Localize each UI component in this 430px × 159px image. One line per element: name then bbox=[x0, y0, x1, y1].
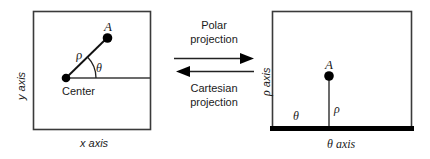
polar-projection-arrow-head bbox=[240, 53, 254, 64]
polar-theta-axis-label: θ axis bbox=[327, 138, 355, 150]
polar-theta-axis-bar bbox=[270, 126, 414, 131]
y-axis-label-text: y axis bbox=[15, 72, 27, 100]
cartesian-y-axis-label: y axis bbox=[16, 72, 27, 100]
cartesian-projection-line-1: Cartesian bbox=[172, 83, 256, 94]
cartesian-projection-arrow-head bbox=[176, 66, 190, 77]
polar-point-a bbox=[324, 71, 334, 81]
cartesian-theta-label: θ bbox=[96, 62, 102, 74]
rho-axis-symbol: ρ bbox=[259, 90, 273, 96]
cartesian-center-label: Center bbox=[62, 86, 95, 97]
polar-projection-line-1: Polar bbox=[174, 20, 254, 31]
x-axis-label-text: x axis bbox=[80, 137, 108, 149]
polar-projection-label: Polar projection bbox=[174, 20, 254, 45]
cartesian-point-a bbox=[103, 33, 113, 43]
cartesian-plane-border bbox=[34, 12, 151, 130]
polar-point-a-label: A bbox=[325, 58, 333, 71]
polar-rho-label: ρ bbox=[334, 103, 340, 115]
cartesian-center-point bbox=[62, 74, 71, 83]
rho-axis-word: axis bbox=[260, 68, 272, 91]
theta-axis-symbol: θ axis bbox=[327, 137, 355, 151]
cartesian-projection-line-2: projection bbox=[172, 97, 256, 108]
cartesian-x-axis-label: x axis bbox=[80, 138, 108, 149]
cartesian-projection-label: Cartesian projection bbox=[172, 83, 256, 108]
polar-theta-label: θ bbox=[293, 110, 299, 122]
polar-rho-axis-label: ρ axis bbox=[260, 68, 272, 96]
figure-root: y axis x axis Center A ρ θ Polar project… bbox=[0, 0, 430, 159]
polar-projection-line-2: projection bbox=[174, 34, 254, 45]
cartesian-angle-arc bbox=[88, 57, 97, 78]
cartesian-rho-label: ρ bbox=[76, 48, 83, 61]
cartesian-point-a-label: A bbox=[104, 20, 112, 33]
